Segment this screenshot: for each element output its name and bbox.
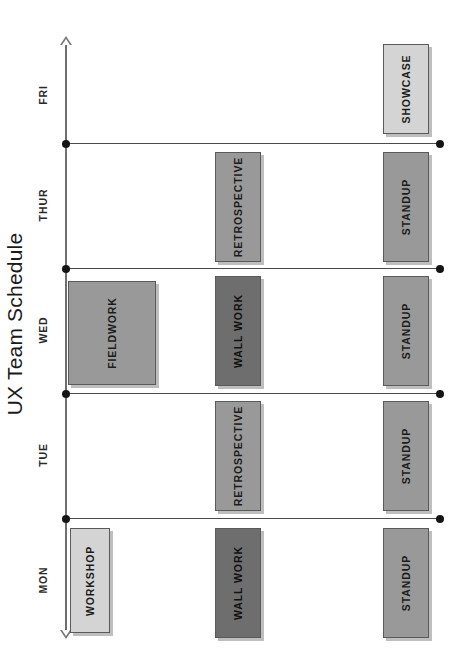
task-bar-label: FIELDWORK [106,297,118,369]
task-bar-wall-work-wed[interactable]: WALL WORK [215,276,261,386]
task-bar-label: SHOWCASE [400,54,412,123]
task-bar-label: WALL WORK [232,546,244,620]
divider-end-dot-icon [436,265,444,273]
axis-tick-label-thur: THUR [34,145,52,265]
day-divider [66,268,440,269]
axis-tick-label-tue: TUE [34,395,52,515]
task-bar-label: RETROSPECTIVE [232,406,244,506]
task-bar-label: STANDUP [400,303,412,359]
divider-start-dot-icon [62,140,70,148]
divider-start-dot-icon [62,265,70,273]
task-bar-standup-tue[interactable]: STANDUP [383,401,429,511]
task-bar-standup-wed[interactable]: STANDUP [383,276,429,386]
task-bar-showcase-fri[interactable]: SHOWCASE [383,44,429,134]
axis-tick-label-wed: WED [34,270,52,390]
task-bar-label: STANDUP [400,179,412,235]
divider-end-dot-icon [436,515,444,523]
axis-arrow-top-icon [60,36,72,45]
value-axis-line [65,44,67,632]
divider-start-dot-icon [62,390,70,398]
day-divider [66,393,440,394]
task-bar-fieldwork-wed[interactable]: FIELDWORK [68,281,156,385]
divider-end-dot-icon [436,140,444,148]
day-divider [66,518,440,519]
task-bar-workshop-mon[interactable]: WORKSHOP [70,528,110,633]
task-bar-retrospective-thur[interactable]: RETROSPECTIVE [215,152,261,262]
task-bar-label: WORKSHOP [84,545,96,615]
chart-canvas: UX Team Schedule FRI THUR WED TUE MON SH… [0,0,461,648]
task-bar-label: STANDUP [400,555,412,611]
day-divider [66,143,440,144]
task-bar-retrospective-tue[interactable]: RETROSPECTIVE [215,401,261,511]
divider-start-dot-icon [62,515,70,523]
axis-tick-label-mon: MON [34,520,52,640]
chart-title: UX Team Schedule [0,0,30,648]
task-bar-label: WALL WORK [232,294,244,368]
task-bar-standup-thur[interactable]: STANDUP [383,152,429,262]
task-bar-wall-work-mon[interactable]: WALL WORK [215,528,261,638]
task-bar-label: RETROSPECTIVE [232,157,244,257]
divider-end-dot-icon [436,390,444,398]
task-bar-standup-mon[interactable]: STANDUP [383,528,429,638]
axis-tick-label-fri: FRI [34,35,52,155]
task-bar-label: STANDUP [400,428,412,484]
